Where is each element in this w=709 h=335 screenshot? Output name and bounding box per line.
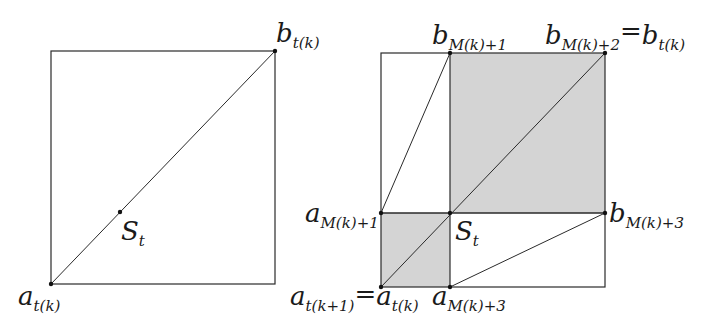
label-st-left: St <box>121 216 146 250</box>
lower-right-diagonal <box>450 213 605 287</box>
point-st-right <box>448 211 452 215</box>
diagram-canvas: bt(k) at(k) St bM(k)+1 bM(k)+2=bt(k) aM(… <box>0 0 709 335</box>
label-b-tk: bt(k) <box>276 18 320 52</box>
point-st <box>118 210 122 214</box>
label-st-right: St <box>455 216 480 250</box>
label-a-mk1: aM(k)+1 <box>305 198 379 232</box>
label-b-mk2-eq-b-tk: bM(k)+2=bt(k) <box>545 16 685 54</box>
point-b-mk3 <box>603 211 607 215</box>
label-b-mk1: bM(k)+1 <box>432 20 507 54</box>
left-panel: bt(k) at(k) St <box>18 18 320 315</box>
right-panel: bM(k)+1 bM(k)+2=bt(k) aM(k)+1 bM(k)+3 St… <box>290 16 685 315</box>
label-a-tk: at(k) <box>18 281 60 315</box>
point-a-tk <box>49 282 53 286</box>
point-a-mk3 <box>448 285 452 289</box>
label-b-mk3: bM(k)+3 <box>609 198 684 232</box>
label-a-mk3: aM(k)+3 <box>432 281 506 315</box>
upper-left-diagonal <box>381 53 450 213</box>
point-a-mk1 <box>379 211 383 215</box>
point-b-tk <box>273 49 277 53</box>
left-diagonal <box>51 51 275 284</box>
